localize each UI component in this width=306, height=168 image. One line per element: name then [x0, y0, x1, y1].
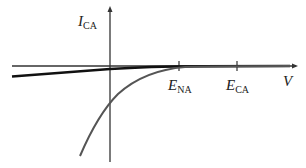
- y-axis-arrow-icon: [108, 6, 113, 12]
- tick-label-eca: ECA: [226, 78, 249, 95]
- tick-label-ena: ENA: [168, 78, 192, 95]
- diagram-graphics: [0, 0, 306, 168]
- x-axis-arrow-icon: [292, 64, 298, 69]
- y-axis-label: ICA: [78, 14, 97, 31]
- iv-diagram: ICA ENA ECA V: [0, 0, 306, 168]
- x-axis-label: V: [283, 74, 292, 89]
